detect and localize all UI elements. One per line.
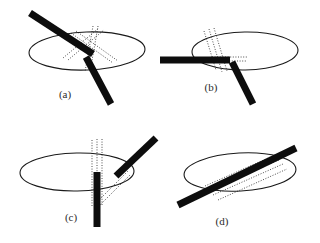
panel-label-a: (a) [59, 88, 72, 101]
panel-label-b: (b) [205, 81, 218, 94]
panel-label-d: (d) [216, 215, 229, 228]
panel-label-c: (c) [65, 211, 78, 224]
figure-container: (a)(b)(c)(d) [0, 0, 320, 243]
figure-canvas: (a)(b)(c)(d) [0, 0, 320, 243]
figure-background [0, 0, 320, 243]
